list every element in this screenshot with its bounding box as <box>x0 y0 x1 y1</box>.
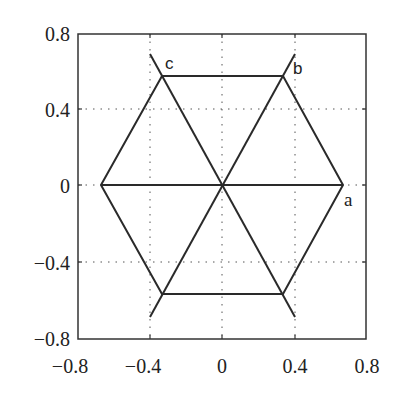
annotation-a: a <box>344 189 353 210</box>
plot-lines <box>101 54 343 317</box>
ytick-label: −0.4 <box>34 252 70 274</box>
chart-canvas: 0.8 0.4 0 −0.4 −0.8 −0.8 −0.4 0 0.4 0.8 … <box>0 0 397 396</box>
xtick-label: −0.4 <box>125 355 161 377</box>
xtick-label: 0 <box>217 355 227 377</box>
ytick-label: 0.8 <box>45 23 70 45</box>
y-tick-labels: 0.8 0.4 0 −0.4 −0.8 <box>34 23 70 350</box>
annotation-b: b <box>293 59 302 78</box>
x-tick-labels: −0.8 −0.4 0 0.4 0.8 <box>52 355 380 377</box>
ytick-label: 0.4 <box>45 99 70 121</box>
xtick-label: 0.4 <box>283 355 308 377</box>
ytick-label: 0 <box>60 175 70 197</box>
annotation-c: c <box>165 54 174 73</box>
xtick-label: 0.8 <box>355 355 380 377</box>
xtick-label: −0.8 <box>52 355 88 377</box>
ytick-label: −0.8 <box>34 328 70 350</box>
